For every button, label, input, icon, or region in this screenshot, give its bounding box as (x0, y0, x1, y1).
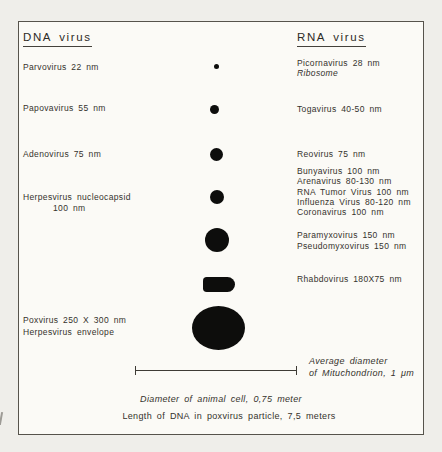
label-group-100nm: Bunyavirus 100 nm Arenavirus 80-130 nm R… (297, 166, 411, 217)
mitochondrion-scale-bar (135, 370, 297, 371)
parvovirus-picornavirus-dot (214, 64, 219, 69)
label-rna-tumor-virus: RNA Tumor Virus 100 nm (297, 187, 411, 197)
rna-virus-header: RNA virus (297, 31, 366, 47)
scale-bar-right-tick (296, 366, 297, 375)
scale-bar-left-tick (135, 366, 136, 375)
dna-virus-header: DNA virus (23, 31, 92, 47)
label-picornavirus: Picornavirus 28 nm (297, 58, 380, 68)
scan-artifact-mark (0, 412, 3, 425)
dna-length-footnote: Length of DNA in poxvirus particle, 7,5 … (18, 411, 432, 421)
label-herpesvirus-nucleocapsid: Herpesvirus nucleocapsid (23, 192, 131, 202)
label-rhabdovirus: Rhabdovirus 180X75 nm (297, 274, 402, 284)
label-pseudomyxovirus: Pseudomyxovirus 150 nm (297, 241, 407, 251)
label-reovirus: Reovirus 75 nm (297, 149, 365, 159)
adenovirus-reovirus-dot (210, 148, 223, 161)
poxvirus-ellipse (192, 306, 245, 350)
paramyxovirus-dot (205, 228, 229, 252)
label-herpesvirus-envelope: Herpesvirus envelope (23, 327, 114, 337)
label-papovavirus: Papovavirus 55 nm (23, 103, 106, 113)
label-herpesvirus-nucleocapsid-size: 100 nm (53, 203, 85, 213)
label-bunyavirus: Bunyavirus 100 nm (297, 166, 411, 176)
label-togavirus: Togavirus 40-50 nm (297, 104, 382, 114)
virus-size-diagram: DNA virus RNA virus Parvovirus 22 nm Pap… (0, 0, 442, 452)
label-poxvirus: Poxvirus 250 X 300 nm (23, 315, 126, 325)
label-ribosome: Ribosome (297, 68, 338, 78)
label-parvovirus: Parvovirus 22 nm (23, 62, 99, 72)
mitochondrion-caption-line2: of Mituchondrion, 1 μm (309, 368, 414, 380)
mitochondrion-caption: Average diameter of Mituchondrion, 1 μm (309, 356, 414, 379)
mitochondrion-caption-line1: Average diameter (309, 356, 414, 368)
rhabdovirus-bullet (203, 277, 235, 292)
label-arenavirus: Arenavirus 80-130 nm (297, 176, 411, 186)
animal-cell-footnote: Diameter of animal cell, 0,75 meter (18, 394, 424, 404)
papovavirus-togavirus-dot (210, 105, 219, 114)
label-paramyxovirus: Paramyxovirus 150 nm (297, 230, 395, 240)
herpesvirus-nucleocapsid-dot (210, 190, 224, 204)
label-coronavirus: Coronavirus 100 nm (297, 207, 411, 217)
label-adenovirus: Adenovirus 75 nm (23, 149, 101, 159)
label-influenza-virus: Influenza Virus 80-120 nm (297, 197, 411, 207)
